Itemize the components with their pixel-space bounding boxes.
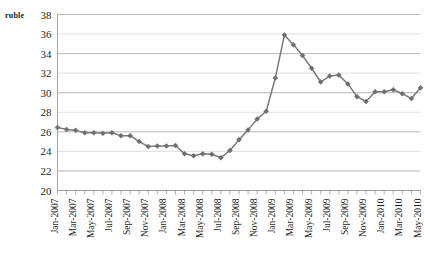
svg-text:Mar-2008: Mar-2008 (177, 198, 187, 236)
svg-text:Sep-2009: Sep-2009 (340, 198, 350, 235)
svg-text:36: 36 (41, 28, 53, 40)
data-series-markers (55, 33, 423, 161)
svg-text:Jan-2010: Jan-2010 (376, 198, 386, 233)
svg-text:Mar-2009: Mar-2009 (285, 198, 295, 236)
svg-text:38: 38 (41, 9, 53, 21)
svg-text:22: 22 (41, 165, 52, 177)
svg-text:May-2010: May-2010 (413, 198, 423, 238)
x-tick-marks-group (58, 191, 421, 195)
svg-text:20: 20 (41, 185, 53, 197)
svg-text:30: 30 (41, 87, 53, 99)
svg-text:Jan-2009: Jan-2009 (267, 198, 277, 233)
svg-text:Jan-2008: Jan-2008 (158, 198, 168, 233)
x-tick-labels-group: Jan-2007Mar-2007May-2007Jul-2007Sep-2007… (50, 198, 423, 238)
svg-text:Jan-2007: Jan-2007 (50, 198, 60, 233)
svg-text:May-2008: May-2008 (195, 198, 205, 238)
svg-text:Jul-2009: Jul-2009 (322, 198, 332, 232)
y-tick-labels-group: 38363432302826242220 (41, 9, 53, 197)
svg-text:Mar-2007: Mar-2007 (68, 198, 78, 236)
chart-plot-area: 38363432302826242220 Jan-2007Mar-2007May… (0, 0, 425, 263)
svg-text:Nov-2009: Nov-2009 (358, 198, 368, 237)
svg-text:Mar-2010: Mar-2010 (394, 198, 404, 236)
svg-text:Nov-2008: Nov-2008 (249, 198, 259, 237)
svg-text:Sep-2008: Sep-2008 (231, 198, 241, 235)
svg-text:Jul-2007: Jul-2007 (104, 198, 114, 232)
svg-text:Nov-2007: Nov-2007 (140, 198, 150, 237)
svg-text:28: 28 (41, 106, 53, 118)
svg-text:Jul-2008: Jul-2008 (213, 198, 223, 232)
svg-text:26: 26 (41, 126, 53, 138)
ruble-exchange-rate-chart: ruble 38363432302826242220 Jan-2007Mar-2… (0, 0, 425, 263)
svg-text:May-2009: May-2009 (304, 198, 314, 238)
svg-text:34: 34 (41, 48, 53, 60)
svg-text:May-2007: May-2007 (86, 198, 96, 238)
svg-text:Sep-2007: Sep-2007 (122, 198, 132, 235)
svg-text:24: 24 (41, 145, 53, 157)
svg-text:32: 32 (41, 67, 52, 79)
